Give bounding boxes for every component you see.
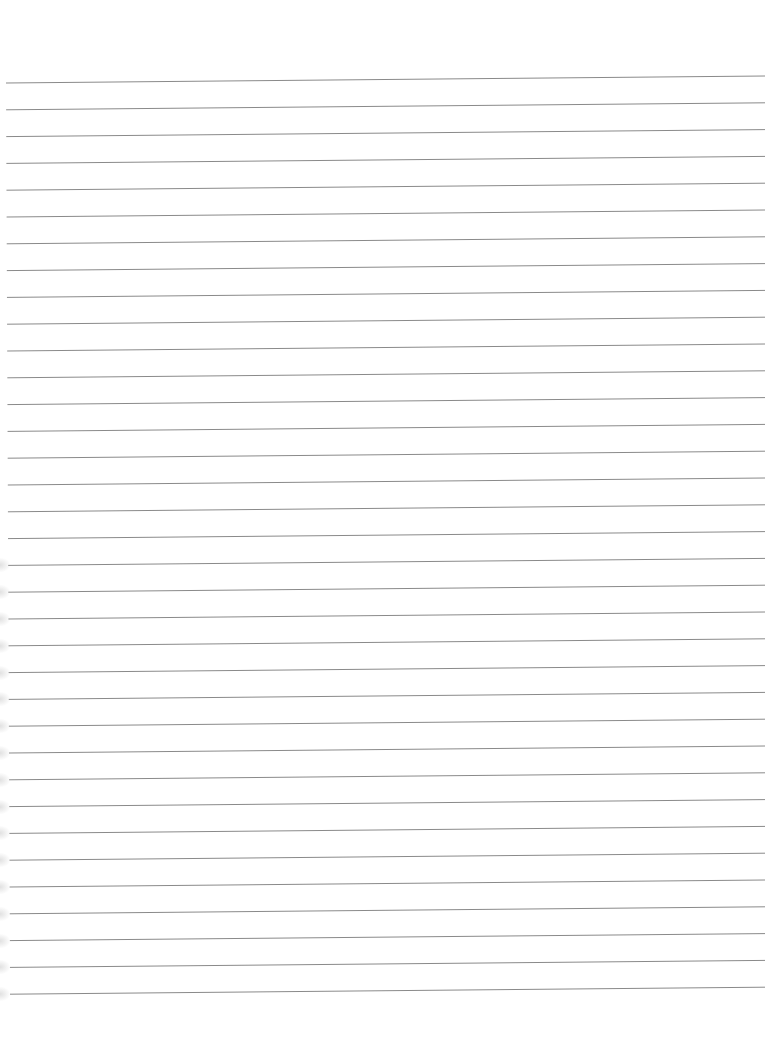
ruled-line — [8, 558, 765, 565]
ruled-line — [8, 532, 765, 539]
ruled-line — [8, 424, 765, 431]
ruled-line — [9, 746, 765, 753]
ruled-line — [7, 317, 765, 324]
ruled-line — [10, 934, 765, 941]
ruled-line — [9, 666, 765, 673]
ruled-line — [6, 103, 765, 110]
ruled-line — [9, 800, 765, 807]
lined-paper-page — [0, 0, 767, 1037]
ruled-line — [8, 478, 765, 485]
ruled-line — [9, 692, 765, 699]
ruled-line — [10, 880, 765, 887]
ruled-line — [10, 960, 765, 967]
ruled-line — [7, 264, 765, 271]
ruled-line — [8, 505, 765, 512]
ruled-line — [7, 344, 765, 351]
ruled-line — [7, 371, 765, 378]
ruled-line — [8, 451, 765, 458]
ruled-line — [9, 639, 765, 646]
ruled-line — [9, 826, 765, 833]
ruled-line — [9, 773, 765, 780]
ruled-line — [7, 237, 765, 244]
ruled-line — [6, 76, 765, 83]
ruled-line — [6, 183, 765, 190]
ruled-line — [9, 853, 765, 860]
ruled-lines — [0, 0, 767, 1037]
ruled-line — [8, 585, 765, 592]
ruled-line — [6, 156, 765, 163]
ruled-line — [7, 290, 765, 297]
ruled-line — [7, 210, 765, 217]
ruled-line — [10, 987, 765, 994]
ruled-line — [10, 907, 765, 914]
ruled-line — [9, 719, 765, 726]
ruled-line — [8, 612, 765, 619]
ruled-line — [7, 398, 765, 405]
ruled-line — [6, 130, 765, 137]
